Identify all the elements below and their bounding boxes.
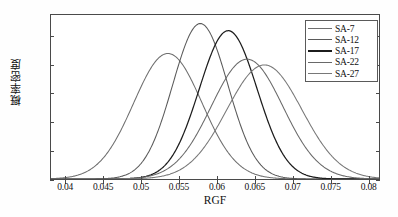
x-tick-inner	[293, 176, 294, 180]
x-tick-inner	[103, 176, 104, 180]
y-tick	[50, 36, 54, 37]
legend-swatch-line	[308, 73, 332, 74]
y-tick	[50, 122, 54, 123]
x-tick-inner	[217, 176, 218, 180]
legend-label: SA-12	[335, 35, 359, 45]
y-axis-title: 概率密度	[9, 58, 25, 106]
x-tick-inner	[65, 176, 66, 180]
legend-item-sa-17[interactable]: SA-17	[308, 46, 374, 57]
y-tick	[50, 180, 54, 181]
x-tick-inner	[179, 176, 180, 180]
y-tick-inner	[376, 122, 380, 123]
y-tick	[50, 151, 54, 152]
legend-item-sa-27[interactable]: SA-27	[308, 68, 374, 79]
x-tick-label: 0.08	[346, 182, 392, 192]
y-tick-inner	[376, 93, 380, 94]
x-axis-title: RGF	[50, 194, 380, 206]
y-tick-inner	[376, 180, 380, 181]
x-tick-inner	[141, 176, 142, 180]
legend-swatch-line	[308, 28, 332, 29]
legend-item-sa-7[interactable]: SA-7	[308, 23, 374, 34]
x-tick-inner	[331, 176, 332, 180]
legend-label: SA-27	[335, 69, 359, 79]
legend-swatch-line	[308, 62, 332, 63]
legend-item-sa-22[interactable]: SA-22	[308, 57, 374, 68]
legend-label: SA-7	[335, 24, 354, 34]
figure-caption	[0, 207, 398, 217]
x-tick-inner	[369, 176, 370, 180]
y-tick	[50, 65, 54, 66]
legend-swatch-line	[308, 39, 332, 40]
chart-legend[interactable]: SA-7 SA-12 SA-17 SA-22 SA-27	[305, 20, 378, 82]
x-tick-inner	[255, 176, 256, 180]
legend-label: SA-22	[335, 57, 359, 67]
legend-item-sa-12[interactable]: SA-12	[308, 34, 374, 45]
legend-swatch-line	[308, 50, 332, 52]
legend-label: SA-17	[335, 46, 359, 56]
y-tick-inner	[376, 151, 380, 152]
y-tick	[50, 93, 54, 94]
figure-container: 概率密度 0.040.0450.050.0550.060.0650.070.07…	[0, 0, 398, 217]
